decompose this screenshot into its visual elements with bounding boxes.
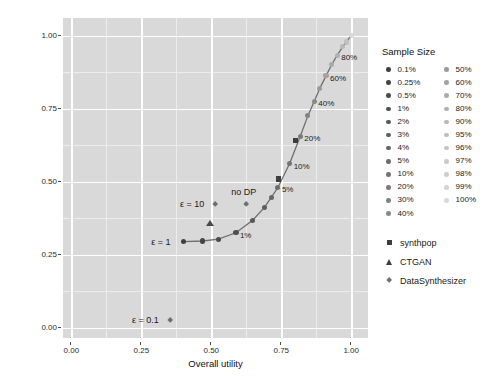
legend-item[interactable]: 0.1% [378,66,436,74]
point-label: 10% [294,163,310,171]
legend-item[interactable]: 98% [436,170,494,178]
legend-row: 1%80% [378,102,496,115]
plot-panel [63,18,368,338]
legend-item-label: 40% [398,210,414,218]
diamond-icon [386,278,392,284]
legend: Sample Size 0.1%50%0.25%60%0.5%70%1%80%2… [378,46,496,290]
legend-row: 0.25%60% [378,76,496,89]
legend-item[interactable]: 96% [436,144,494,152]
legend-method-label: synthpop [400,238,437,248]
legend-dot-icon [444,107,449,112]
legend-item[interactable]: 1% [378,105,436,113]
legend-item-label: 3% [398,131,410,139]
legend-row: 40% [378,207,496,220]
y-tick-mark [58,181,61,182]
legend-item[interactable]: 99% [436,183,494,191]
x-tick-mark [140,342,141,345]
x-tick-mark [210,342,211,345]
legend-method-item[interactable]: synthpop [378,233,496,252]
legend-item-label: 98% [456,170,472,178]
ctgan-marker [206,220,214,226]
legend-dot-icon [444,80,449,85]
legend-item-label: 60% [456,79,472,87]
legend-item[interactable]: 2% [378,118,436,126]
y-tick-label: 0.75 [21,105,57,113]
legend-item[interactable]: 30% [378,196,436,204]
legend-dot-icon [386,93,391,98]
chart-root: Risk (marginal TCAP) Overall utility Sam… [0,0,496,389]
data-point [233,230,238,235]
square-icon [387,240,392,245]
legend-item-label: 97% [456,157,472,165]
x-tick-label: 0.25 [121,347,161,355]
legend-dot-icon [386,159,391,164]
legend-item[interactable]: 90% [436,118,494,126]
legend-item[interactable]: 100% [436,196,494,204]
legend-dot-icon [386,107,391,112]
legend-dot-icon [444,172,449,177]
legend-item-label: 90% [456,118,472,126]
legend-dot-icon [386,172,391,177]
y-tick-mark [58,108,61,109]
legend-shape-icon-wrap [378,240,400,245]
data-point [181,239,186,244]
legend-item[interactable]: 95% [436,131,494,139]
legend-item[interactable]: 0.25% [378,79,436,87]
legend-row: 5%97% [378,155,496,168]
x-tick-label: 1.00 [331,347,371,355]
legend-shape-icon-wrap [378,278,400,282]
legend-row: 0.1%50% [378,63,496,76]
legend-item-label: 20% [398,183,414,191]
legend-title: Sample Size [382,46,496,57]
data-point [344,39,349,44]
legend-dot-icon [444,133,449,138]
legend-item-label: 80% [456,105,472,113]
data-point [312,99,317,104]
legend-dot-icon [444,93,449,98]
legend-dot-icon [386,80,391,85]
legend-item[interactable]: 40% [378,210,436,218]
data-point [262,205,267,210]
legend-dot-icon [386,211,391,216]
y-tick-mark [58,327,61,328]
legend-dot-icon [386,67,391,72]
x-tick-mark [280,342,281,345]
y-tick-label: 1.00 [21,32,57,40]
data-point [269,195,274,200]
legend-item[interactable]: 20% [378,183,436,191]
legend-item[interactable]: 10% [378,170,436,178]
legend-item[interactable]: 80% [436,105,494,113]
legend-item[interactable]: 5% [378,157,436,165]
legend-sample-size-group: 0.1%50%0.25%60%0.5%70%1%80%2%90%3%95%4%9… [378,63,496,220]
legend-dot-icon [444,159,449,164]
legend-item-label: 10% [398,170,414,178]
legend-item[interactable]: 0.5% [378,92,436,100]
data-point [298,134,303,139]
curve-path [63,18,368,338]
legend-item[interactable]: 70% [436,92,494,100]
y-tick-label: 0.00 [21,324,57,332]
y-tick-label: 0.25 [21,251,57,259]
legend-item[interactable]: 4% [378,144,436,152]
point-label: 20% [304,135,320,143]
legend-row: 4%96% [378,142,496,155]
x-tick-mark [70,342,71,345]
legend-row: 30%100% [378,194,496,207]
legend-item[interactable]: 3% [378,131,436,139]
synthpop-marker [276,176,281,181]
legend-item-label: 5% [398,157,410,165]
legend-dot-icon [386,133,391,138]
legend-dot-icon [444,198,449,203]
legend-method-item[interactable]: DataSynthesizer [378,271,496,290]
legend-method-item[interactable]: CTGAN [378,252,496,271]
legend-item-label: 4% [398,144,410,152]
data-point [216,237,221,242]
legend-row: 10%98% [378,168,496,181]
legend-dot-icon [444,146,449,151]
legend-item-label: 70% [456,92,472,100]
legend-item[interactable]: 60% [436,79,494,87]
legend-item[interactable]: 50% [436,66,494,74]
legend-item[interactable]: 97% [436,157,494,165]
data-point [335,53,340,58]
legend-item-label: 1% [398,105,410,113]
